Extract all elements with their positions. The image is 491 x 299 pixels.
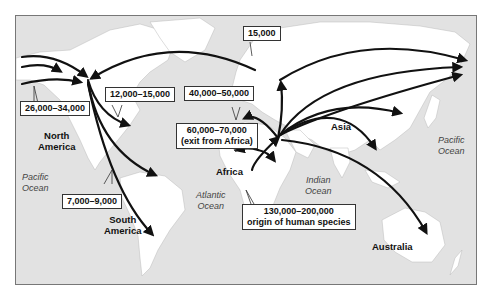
region-text: Australia	[372, 241, 413, 252]
ocean-indian: Indian Ocean	[305, 175, 332, 197]
label-text: 26,000–34,000	[25, 103, 85, 114]
label-7000-9000: 7,000–9,000	[62, 194, 122, 209]
label-15000: 15,000	[243, 26, 281, 41]
region-text: North	[38, 130, 76, 141]
label-text: 60,000–70,000	[181, 125, 253, 136]
callout-south-america	[104, 170, 112, 184]
region-australia: Australia	[372, 241, 413, 252]
ocean-text: Ocean	[438, 146, 465, 157]
ocean-pacific-east: Pacific Ocean	[438, 135, 465, 157]
label-text: (exit from Africa)	[181, 136, 253, 147]
ocean-text: Ocean	[196, 201, 226, 212]
ocean-text: Pacific	[22, 172, 49, 183]
region-text: South	[104, 214, 142, 225]
label-text: 130,000–200,000	[247, 206, 351, 217]
callout-europe	[232, 107, 240, 120]
label-text: 7,000–9,000	[67, 196, 117, 207]
ocean-atlantic: Atlantic Ocean	[196, 190, 226, 212]
label-12000-15000: 12,000–15,000	[105, 87, 175, 102]
ocean-text: Ocean	[22, 183, 49, 194]
region-north-america: North America	[38, 130, 76, 152]
label-text: 12,000–15,000	[110, 89, 170, 100]
label-26000-34000: 26,000–34,000	[20, 101, 90, 116]
region-text: America	[38, 141, 76, 152]
land-new-zealand	[450, 250, 462, 275]
region-text: Asia	[331, 121, 351, 132]
ocean-text: Ocean	[305, 186, 332, 197]
label-exit-from-africa: 60,000–70,000 (exit from Africa)	[176, 123, 258, 149]
label-text: 40,000–50,000	[189, 88, 249, 99]
label-origin-of-human-species: 130,000–200,000 origin of human species	[242, 204, 356, 230]
ocean-text: Atlantic	[196, 190, 226, 201]
region-text: America	[104, 225, 142, 236]
region-africa: Africa	[216, 166, 243, 177]
label-text: origin of human species	[247, 217, 351, 228]
label-40000-50000: 40,000–50,000	[184, 86, 254, 101]
ocean-pacific-west: Pacific Ocean	[22, 172, 49, 194]
region-south-america: South America	[104, 214, 142, 236]
land-japan	[424, 95, 440, 128]
region-text: Africa	[216, 166, 243, 177]
land-india	[330, 148, 350, 178]
ocean-text: Pacific	[438, 135, 465, 146]
region-asia: Asia	[331, 121, 351, 132]
land-australia	[382, 208, 445, 262]
label-text: 15,000	[248, 28, 276, 39]
ocean-text: Indian	[305, 175, 332, 186]
